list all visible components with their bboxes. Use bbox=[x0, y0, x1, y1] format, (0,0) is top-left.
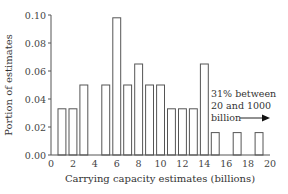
bars-group bbox=[58, 18, 263, 155]
histogram-bar bbox=[58, 109, 66, 155]
histogram-bar bbox=[211, 133, 219, 155]
y-ticks: 0.000.020.040.060.080.10 bbox=[25, 10, 51, 161]
x-tick-label: 18 bbox=[242, 158, 254, 169]
x-tick-label: 4 bbox=[92, 158, 98, 169]
annotation-line-3: billion bbox=[211, 112, 241, 123]
histogram-bar bbox=[80, 85, 88, 155]
x-tick-label: 8 bbox=[136, 158, 142, 169]
y-tick-label: 0.00 bbox=[25, 150, 46, 161]
histogram-bar bbox=[124, 85, 132, 155]
x-tick-label: 12 bbox=[176, 158, 188, 169]
x-tick-label: 2 bbox=[70, 158, 76, 169]
y-tick-label: 0.02 bbox=[25, 122, 46, 133]
y-axis-label: Portion of estimates bbox=[3, 34, 14, 136]
histogram-bar bbox=[255, 133, 263, 155]
y-tick-label: 0.08 bbox=[25, 38, 46, 49]
x-tick-label: 20 bbox=[264, 158, 276, 169]
y-tick-label: 0.04 bbox=[25, 94, 46, 105]
x-tick-label: 16 bbox=[220, 158, 232, 169]
histogram-bar bbox=[135, 64, 143, 155]
histogram-bar bbox=[157, 85, 165, 155]
histogram-bar bbox=[102, 85, 110, 155]
annotation-line-2: 20 and 1000 bbox=[211, 100, 271, 111]
y-tick-label: 0.10 bbox=[25, 10, 46, 21]
x-tick-label: 14 bbox=[198, 158, 210, 169]
annotation: 31% between 20 and 1000 billion bbox=[211, 88, 276, 123]
x-axis-label: Carrying capacity estimates (billions) bbox=[65, 173, 255, 184]
y-tick-label: 0.06 bbox=[25, 66, 46, 77]
histogram-bar bbox=[179, 109, 187, 155]
x-ticks: 02468101214161820 bbox=[48, 158, 276, 169]
histogram-bar bbox=[168, 109, 176, 155]
x-tick-label: 10 bbox=[154, 158, 166, 169]
histogram-chart: 0.000.020.040.060.080.10 024681012141618… bbox=[0, 0, 288, 194]
histogram-bar bbox=[69, 109, 77, 155]
histogram-bar bbox=[233, 133, 241, 155]
annotation-line-1: 31% between bbox=[211, 88, 276, 99]
right-arrow-icon bbox=[240, 115, 270, 122]
histogram-bar bbox=[146, 85, 154, 155]
x-tick-label: 0 bbox=[48, 158, 54, 169]
histogram-bar bbox=[200, 64, 208, 155]
x-tick-label: 6 bbox=[114, 158, 120, 169]
histogram-bar bbox=[189, 109, 197, 155]
histogram-bar bbox=[113, 18, 121, 155]
